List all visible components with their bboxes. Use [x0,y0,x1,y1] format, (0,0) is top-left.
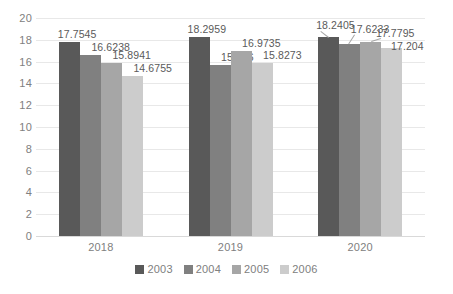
bar [80,55,101,236]
y-axis-tick-label: 18 [2,34,32,45]
legend-swatch-icon [232,265,241,274]
x-axis-tick-label: 2019 [218,240,243,255]
bar [360,42,381,236]
legend-item-label: 2005 [244,264,269,275]
plot-area: 17.754516.623815.894114.675518.295915.67… [36,18,425,236]
legend-item-label: 2006 [292,264,317,275]
x-axis: 201820192020 [36,240,425,260]
data-label: 16.9735 [242,38,281,49]
y-axis-tick-label: 12 [2,100,32,111]
y-axis-tick-label: 14 [2,78,32,89]
data-label: 15.8941 [112,50,151,61]
y-axis-tick-label: 20 [2,13,32,24]
y-axis-tick-label: 16 [2,56,32,67]
bar [210,65,231,236]
axis-baseline [36,236,425,237]
data-label: 14.6755 [133,63,172,74]
bar [339,44,360,236]
data-label: 17.7795 [376,28,415,39]
bar [189,37,210,236]
chart-legend: 2003200420052006 [0,264,453,275]
bar [381,48,402,236]
x-axis-tick-label: 2020 [348,240,373,255]
data-label: 17.204 [391,41,424,52]
legend-item[interactable]: 2004 [184,264,221,275]
legend-item-label: 2004 [196,264,221,275]
legend-swatch-icon [135,265,144,274]
data-label: 18.2959 [188,24,227,35]
x-axis-tick-label: 2018 [88,240,113,255]
legend-item[interactable]: 2006 [280,264,317,275]
bar [252,63,273,236]
y-axis-tick-label: 8 [2,143,32,154]
bar [59,42,80,236]
y-axis: 20181614121086420 [0,18,32,236]
data-label: 18.2405 [316,20,355,31]
bar [101,63,122,236]
legend-item-label: 2003 [147,264,172,275]
gridline [36,18,425,19]
data-label: 17.7545 [58,29,97,40]
legend-swatch-icon [280,265,289,274]
y-axis-tick-label: 4 [2,187,32,198]
bar [122,76,143,236]
legend-swatch-icon [184,265,193,274]
y-axis-tick-label: 6 [2,165,32,176]
legend-item[interactable]: 2005 [232,264,269,275]
bar [231,51,252,236]
y-axis-tick-label: 2 [2,209,32,220]
bar-chart: 20181614121086420 17.754516.623815.89411… [0,0,453,294]
legend-item[interactable]: 2003 [135,264,172,275]
y-axis-tick-label: 10 [2,122,32,133]
y-axis-tick-label: 0 [2,231,32,242]
bar [318,37,339,236]
data-label: 15.8273 [263,50,302,61]
